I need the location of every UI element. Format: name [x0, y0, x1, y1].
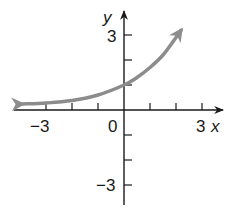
- y-tick-label-neg3: −3: [96, 176, 115, 195]
- y-axis-label: y: [102, 8, 113, 27]
- y-tick-label-3: 3: [107, 27, 116, 46]
- origin-label: 0: [108, 117, 117, 136]
- exponential-curve: [23, 30, 182, 104]
- x-tick-label-neg3: −3: [30, 117, 49, 136]
- x-axis-label: x: [210, 117, 220, 136]
- x-tick-label-3: 3: [196, 117, 205, 136]
- exponential-graph: y 3 −3 0 3 x −3: [0, 0, 226, 213]
